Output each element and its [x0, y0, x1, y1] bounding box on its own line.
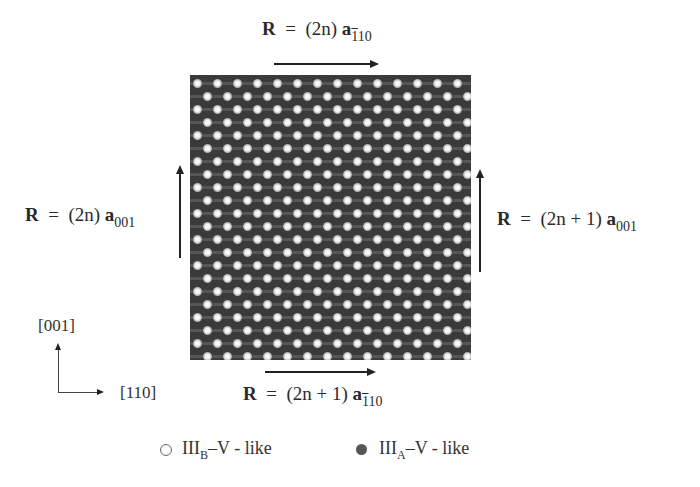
atom-column — [293, 339, 302, 348]
r-symbol: R — [497, 208, 511, 229]
atom-column — [283, 300, 292, 309]
atom-column — [403, 326, 412, 335]
atom-column — [203, 352, 212, 360]
atom-column — [323, 144, 332, 153]
atom-column — [223, 300, 232, 309]
atom-column — [413, 313, 422, 322]
atom-column — [323, 92, 332, 101]
atom-column — [283, 352, 292, 360]
atom-column — [203, 326, 212, 335]
atom-column — [413, 157, 422, 166]
atom-column — [353, 183, 362, 192]
atom-column — [223, 248, 232, 257]
atom-column — [443, 196, 452, 205]
atom-column — [413, 183, 422, 192]
atom-column — [243, 144, 252, 153]
atom-column — [213, 79, 222, 88]
atom-column — [213, 339, 222, 348]
open-circle-icon — [160, 444, 172, 456]
atom-column — [193, 183, 202, 192]
atom-column — [333, 79, 342, 88]
atom-column — [433, 157, 442, 166]
atom-column — [413, 105, 422, 114]
atom-column — [333, 105, 342, 114]
atom-column — [263, 222, 272, 231]
atom-column — [393, 131, 402, 140]
atom-column — [423, 196, 432, 205]
atom-column — [433, 261, 442, 270]
atom-column — [233, 261, 242, 270]
atom-column — [333, 287, 342, 296]
atom-column — [433, 105, 442, 114]
atom-column — [223, 222, 232, 231]
legend-label: III — [379, 438, 397, 458]
subscript: 001 — [616, 219, 637, 234]
atom-column — [453, 131, 462, 140]
atom-column — [373, 183, 382, 192]
atom-column — [343, 326, 352, 335]
atom-column — [203, 222, 212, 231]
atom-column — [203, 248, 212, 257]
r-symbol: R — [243, 383, 257, 404]
atom-column — [263, 274, 272, 283]
atom-column — [303, 352, 312, 360]
atom-column — [413, 79, 422, 88]
atom-column — [243, 92, 252, 101]
atom-column — [423, 144, 432, 153]
atom-column — [323, 274, 332, 283]
atom-column — [203, 92, 212, 101]
atom-column — [353, 209, 362, 218]
atom-column — [283, 144, 292, 153]
atom-column — [393, 105, 402, 114]
atom-column — [403, 300, 412, 309]
atom-column — [233, 235, 242, 244]
atom-column — [223, 352, 232, 360]
bottom-arrow — [265, 371, 369, 373]
atom-column — [383, 248, 392, 257]
atom-column — [273, 339, 282, 348]
atom-column — [383, 274, 392, 283]
atom-column — [213, 209, 222, 218]
atom-column — [453, 261, 462, 270]
atom-column — [393, 157, 402, 166]
left-arrowhead-icon — [176, 165, 184, 174]
atom-column — [363, 118, 372, 127]
right-arrowhead-icon — [476, 169, 484, 178]
atom-column — [453, 105, 462, 114]
atom-column — [293, 131, 302, 140]
atom-column — [453, 209, 462, 218]
atom-column — [353, 339, 362, 348]
equals-sign: = — [48, 204, 59, 225]
atom-column — [303, 196, 312, 205]
r-symbol: R — [262, 18, 276, 39]
atom-column — [233, 287, 242, 296]
atom-column — [423, 352, 432, 360]
atom-column — [433, 209, 442, 218]
atom-column — [393, 79, 402, 88]
atom-column — [263, 144, 272, 153]
legend-item-iiia-v: IIIA–V - like — [356, 438, 469, 459]
atom-column — [253, 313, 262, 322]
atom-column — [223, 170, 232, 179]
atom-column — [363, 352, 372, 360]
atom-column — [243, 222, 252, 231]
atom-column — [443, 144, 452, 153]
atom-column — [193, 105, 202, 114]
atom-column — [423, 222, 432, 231]
legend-label: III — [182, 438, 200, 458]
atom-column — [273, 105, 282, 114]
atom-column — [343, 274, 352, 283]
equals-sign: = — [285, 18, 296, 39]
atom-column — [273, 131, 282, 140]
atom-column — [343, 222, 352, 231]
atom-column — [453, 157, 462, 166]
atom-column — [293, 287, 302, 296]
atom-column — [343, 196, 352, 205]
subscript: 10 — [369, 394, 383, 409]
atom-column — [343, 92, 352, 101]
atom-column — [263, 300, 272, 309]
atom-column — [323, 248, 332, 257]
atom-column — [323, 326, 332, 335]
atom-column — [453, 235, 462, 244]
legend-rest: –V - like — [208, 438, 272, 458]
